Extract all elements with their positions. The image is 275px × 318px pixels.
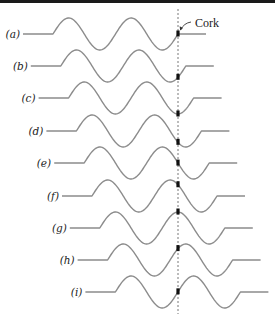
diagram-canvas: (a)(b)(c)(d)(e)(f)(g)(h)(i) Cork	[0, 0, 275, 318]
row-label: (a)	[6, 28, 20, 40]
cork-marker	[176, 209, 179, 215]
wave-row-h	[78, 244, 261, 276]
row-label: (i)	[71, 286, 83, 298]
cork-marker	[176, 288, 179, 294]
row-label: (b)	[13, 60, 28, 72]
cork-marker	[176, 31, 179, 37]
row-label: (h)	[60, 254, 75, 266]
row-label: (c)	[22, 92, 36, 104]
wave-row-f	[62, 180, 245, 212]
cork-marker	[176, 245, 179, 251]
cork-marker	[176, 110, 179, 116]
wave-row-e	[54, 147, 237, 179]
wave-cork-diagram: (a)(b)(c)(d)(e)(f)(g)(h)(i) Cork	[0, 0, 275, 318]
cork-marker	[176, 181, 179, 187]
wave-row-d	[46, 115, 229, 147]
cork-pointer-arrow-icon	[181, 22, 192, 30]
row-label: (d)	[28, 125, 43, 137]
row-label: (e)	[37, 157, 51, 169]
wave-rows: (a)(b)(c)(d)(e)(f)(g)(h)(i)	[6, 18, 269, 308]
row-label: (f)	[47, 190, 59, 202]
row-label: (g)	[52, 222, 67, 234]
wave-row-b	[31, 50, 214, 82]
wave-row-g	[70, 212, 253, 244]
cork-marker	[176, 139, 179, 145]
cork-marker	[176, 74, 179, 80]
cork-marker	[176, 160, 179, 166]
wave-row-c	[39, 82, 222, 114]
cork-label: Cork	[195, 16, 219, 30]
